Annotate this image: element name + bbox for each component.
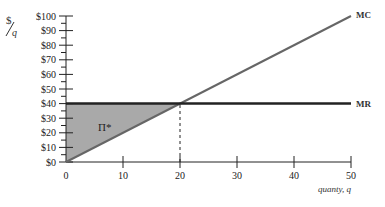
x-tick-label: 40	[289, 170, 299, 181]
chart-canvas: Π*$0$10$20$30$40$50$60$70$80$90$10001020…	[0, 0, 385, 207]
y-tick-label: $70	[41, 54, 56, 65]
y-tick-label: $60	[41, 69, 56, 80]
mc-line	[66, 16, 351, 162]
x-tick-label: 30	[232, 170, 242, 181]
y-tick-label: $50	[41, 84, 56, 95]
y-tick-label: $0	[46, 157, 56, 168]
y-tick-label: $10	[41, 142, 56, 153]
y-tick-label: $90	[41, 25, 56, 36]
y-tick-label: $100	[36, 11, 56, 22]
profit-label: Π*	[98, 121, 111, 133]
y-unit-numerator: $	[6, 14, 12, 26]
x-axis-title: quanty, q	[318, 184, 351, 194]
x-tick-label: 10	[118, 170, 128, 181]
y-tick-label: $40	[41, 98, 56, 109]
y-tick-label: $30	[41, 113, 56, 124]
x-tick-label: 50	[346, 170, 356, 181]
mc-label: MC	[356, 10, 371, 20]
mr-label: MR	[356, 99, 371, 109]
y-unit-denominator: q	[12, 27, 17, 38]
y-tick-label: $20	[41, 127, 56, 138]
y-tick-label: $80	[41, 40, 56, 51]
x-tick-label: 0	[64, 170, 69, 181]
x-tick-label: 20	[175, 170, 185, 181]
